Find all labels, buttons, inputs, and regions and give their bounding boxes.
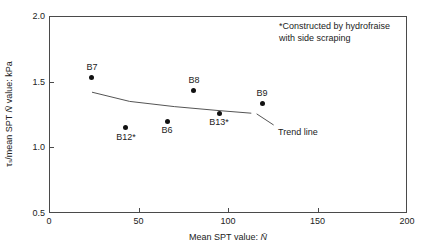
y-tick-label-1.0: 1.0 [27, 142, 45, 152]
annotation-note: *Constructed by hydrofraise with side sc… [279, 20, 390, 44]
y-tick-label-2.0: 2.0 [27, 11, 45, 21]
data-point-label-B12*: B12* [109, 132, 143, 142]
trend-label-leader-line [257, 114, 274, 125]
y-tick-mark-1.0 [50, 147, 54, 148]
x-axis-title-prefix: Mean SPT value: [189, 232, 260, 242]
data-point-label-B6: B6 [150, 125, 184, 135]
x-tick-label-50: 50 [126, 216, 152, 226]
x-tick-mark-50 [139, 208, 140, 212]
data-point-B6 [165, 119, 170, 124]
scatter-chart-figure: 0501001502000.51.01.52.0 B7B12*B6B8B13*B… [0, 0, 427, 251]
data-point-label-B13*: B13* [202, 117, 236, 127]
x-tick-label-150: 150 [305, 216, 331, 226]
x-axis-nbar: N̄ [260, 232, 267, 242]
data-point-label-B8: B8 [177, 75, 211, 85]
y-axis-title: τₛ/mean SPT N̄ value: kPa [4, 61, 14, 166]
annotation-line-2: with side scraping [279, 32, 390, 44]
y-tick-label-0.5: 0.5 [27, 208, 45, 218]
data-point-label-B9: B9 [245, 88, 279, 98]
trend-line-label: Trend line [278, 127, 318, 137]
x-tick-label-200: 200 [394, 216, 420, 226]
data-point-B13* [217, 111, 222, 116]
y-tick-mark-1.5 [50, 82, 54, 83]
x-tick-label-100: 100 [215, 216, 241, 226]
x-axis-title: Mean SPT value: N̄ [128, 232, 328, 242]
y-axis-title-prefix: τₛ/mean SPT [4, 112, 14, 166]
y-axis-nbar: N̄ [4, 106, 14, 113]
x-tick-mark-100 [228, 208, 229, 212]
x-tick-mark-150 [318, 208, 319, 212]
annotation-line-1: *Constructed by hydrofraise [279, 20, 390, 32]
trend-line-curve [92, 92, 251, 113]
data-point-label-B7: B7 [75, 62, 109, 72]
y-tick-label-1.5: 1.5 [27, 77, 45, 87]
y-axis-title-suffix: value: kPa [4, 61, 14, 106]
